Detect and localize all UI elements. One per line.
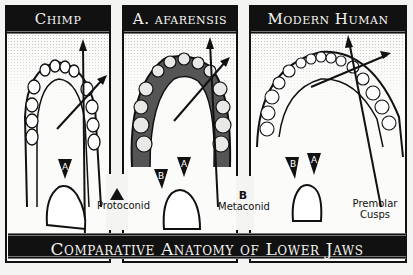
premolar-legend: Premolar Cusps xyxy=(350,198,400,220)
metaconid-legend: B Metaconid xyxy=(218,190,268,212)
protoconid-marker-icon xyxy=(110,188,124,200)
afarensis-panel: A. afarensis B A xyxy=(122,5,238,263)
afarensis-jaw-illustration: B A xyxy=(124,7,240,265)
metaconid-label: Metaconid xyxy=(218,201,268,212)
metaconid-marker: B xyxy=(218,190,268,201)
modern-human-panel: Modern Human B A xyxy=(249,5,407,263)
chimp-panel: Chimp A xyxy=(5,5,111,263)
protoconid-legend: Protoconid xyxy=(97,188,137,211)
svg-text:A: A xyxy=(311,155,318,165)
banner-title: Comparative Anatomy of Lower Jaws xyxy=(8,233,406,259)
svg-text:B: B xyxy=(290,159,296,169)
protoconid-label: Protoconid xyxy=(97,200,137,211)
svg-text:A: A xyxy=(62,162,69,172)
chimp-jaw-illustration: A xyxy=(7,7,113,265)
modern-human-jaw-illustration: B A xyxy=(251,7,409,265)
svg-text:A: A xyxy=(181,159,188,169)
premolar-label-line1: Premolar xyxy=(350,198,400,209)
premolar-label-line2: Cusps xyxy=(350,209,400,220)
svg-text:B: B xyxy=(158,171,164,181)
